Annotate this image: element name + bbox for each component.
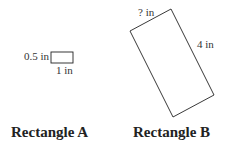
rectangle-a-height-label: 0.5 in	[24, 50, 50, 62]
rectangle-b-short-side-label: ? in	[138, 6, 155, 18]
rectangle-b-shape	[130, 9, 214, 117]
rectangle-b-title: Rectangle B	[133, 124, 210, 140]
rectangle-a-width-label: 1 in	[56, 64, 73, 76]
rectangle-b-long-side-label: 4 in	[197, 38, 214, 50]
rectangle-a-title: Rectangle A	[11, 124, 88, 140]
rectangle-a-shape	[51, 52, 73, 63]
rectangles-diagram: 0.5 in 1 in Rectangle A ? in 4 in Rectan…	[0, 0, 227, 147]
